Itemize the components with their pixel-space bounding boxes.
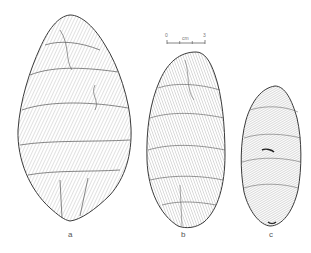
scale-unit-label: cm: [182, 35, 189, 41]
artifact-a-drawing: [18, 15, 131, 221]
scale-end-label: 3: [203, 32, 206, 38]
artifact-b-drawing: [147, 52, 225, 228]
scale-start-label: 0: [165, 32, 168, 38]
artifact-figure: 0 cm 3 a b c: [0, 0, 311, 253]
artifact-b-label: b: [181, 230, 185, 239]
artifact-c-label: c: [269, 230, 273, 239]
artifact-a-label: a: [68, 230, 72, 239]
artifact-c-drawing: [241, 86, 301, 226]
